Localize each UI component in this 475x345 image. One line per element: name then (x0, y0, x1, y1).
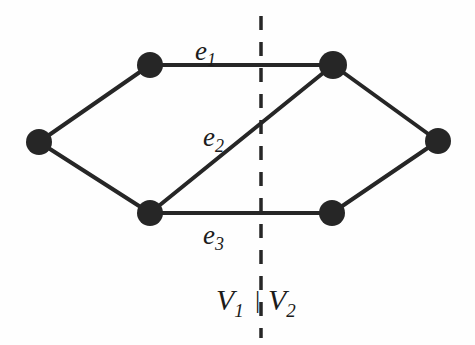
vertex-lower-right (319, 200, 345, 226)
edge-label-e2-sub: 2 (215, 136, 224, 156)
edge-left-lowerleft (39, 142, 150, 213)
vertex-group (26, 51, 451, 226)
graph-cut-figure: e1 e2 e3 V1 | V2 (0, 0, 475, 345)
edge-upperright-right (333, 65, 438, 141)
partition-separator: | (255, 287, 260, 313)
vertex-upper-left (137, 52, 163, 78)
edge-lowerright-right (332, 141, 438, 213)
vertex-lower-left (137, 200, 163, 226)
vertex-upper-right (319, 51, 347, 79)
edge-label-e3-sub: 3 (215, 234, 224, 254)
edge-label-e3-base: e (203, 220, 215, 250)
vertex-left (26, 129, 52, 155)
partition-label-v1-sub: 1 (234, 300, 244, 321)
edge-label-e1-sub: 1 (207, 50, 216, 70)
partition-label-v2-sub: 2 (286, 300, 296, 321)
partition-label-v2-base: V (268, 283, 286, 316)
edge-e2 (150, 65, 333, 213)
edge-label-e2: e2 (203, 124, 224, 151)
edge-label-e3: e3 (203, 222, 224, 249)
partition-label-v2: V2 (268, 285, 296, 315)
edge-label-e2-base: e (203, 122, 215, 152)
partition-label-v1-base: V (216, 283, 234, 316)
edge-label-e1: e1 (195, 38, 216, 65)
partition-label-v1: V1 (216, 285, 244, 315)
edge-group (39, 65, 438, 213)
vertex-right (425, 128, 451, 154)
edge-label-e1-base: e (195, 36, 207, 66)
edge-left-upperleft (39, 65, 150, 142)
